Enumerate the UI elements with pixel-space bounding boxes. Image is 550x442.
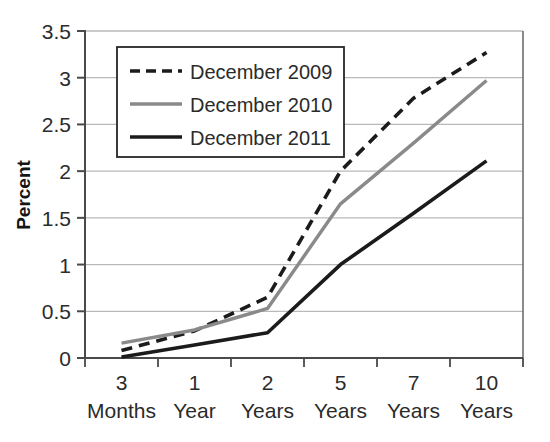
legend-label-0: December 2009 (190, 61, 332, 83)
x-tick-label-unit-3: Years (314, 399, 367, 422)
chart-container: 00.511.522.533.5 3Months1Year2Years5Year… (0, 0, 550, 442)
x-tick-label-number-2: 2 (262, 371, 274, 394)
legend-label-1: December 2010 (190, 94, 332, 116)
x-tick-label-unit-0: Months (87, 399, 156, 422)
x-tick-label-number-3: 5 (335, 371, 347, 394)
x-tick-label-unit-1: Year (173, 399, 215, 422)
x-tick-label-unit-5: Years (460, 399, 513, 422)
x-tick-label-unit-2: Years (241, 399, 294, 422)
legend-label-2: December 2011 (190, 127, 331, 149)
y-axis-title: Percent (13, 159, 34, 229)
x-tick-label-unit-4: Years (387, 399, 440, 422)
line-chart: 00.511.522.533.5 3Months1Year2Years5Year… (0, 0, 550, 442)
x-tick-label-number-4: 7 (408, 371, 420, 394)
y-tick-label-2: 2 (59, 160, 71, 183)
chart-legend: December 2009December 2010December 2011 (117, 47, 344, 157)
x-tick-label-number-0: 3 (116, 371, 128, 394)
y-tick-label-3: 3 (59, 67, 71, 90)
y-tick-label-3.5: 3.5 (42, 20, 71, 43)
y-tick-label-0: 0 (59, 347, 71, 370)
y-axis-title-text: Percent (13, 159, 34, 229)
y-tick-label-0.5: 0.5 (42, 300, 71, 323)
y-tick-label-1: 1 (59, 254, 71, 277)
y-tick-label-1.5: 1.5 (42, 207, 71, 230)
x-tick-label-number-1: 1 (189, 371, 201, 394)
y-tick-label-2.5: 2.5 (42, 113, 71, 136)
x-tick-label-number-5: 10 (475, 371, 498, 394)
